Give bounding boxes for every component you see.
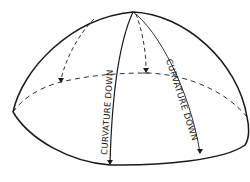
base-back-dashed-curve	[13, 73, 247, 117]
right-meridian-label: CURVATURE DOWN	[164, 58, 200, 143]
dome-drawing: CURVATURE DOWN CURVATURE DOWN	[0, 0, 250, 182]
right-meridian-arrowhead	[197, 149, 203, 154]
left-dashed-meridian	[61, 19, 94, 80]
dome-diagram: CURVATURE DOWN CURVATURE DOWN	[0, 0, 250, 182]
base-front-curve	[13, 112, 249, 165]
center-dashed-meridian-arrowhead	[143, 68, 149, 73]
dome-outline	[13, 12, 247, 117]
